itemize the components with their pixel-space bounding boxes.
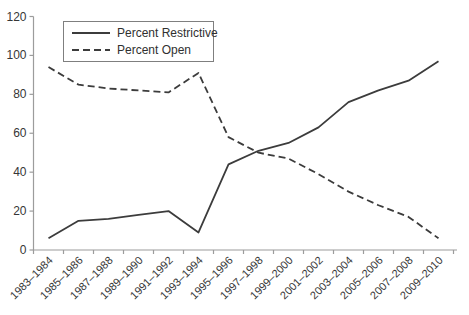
legend-label-percent-restrictive: Percent Restrictive — [117, 26, 218, 40]
legend-label-percent-open: Percent Open — [117, 43, 191, 57]
legend-item-percent-restrictive: Percent Restrictive — [72, 26, 207, 40]
y-tick-label: 100 — [6, 48, 26, 62]
legend-item-percent-open: Percent Open — [72, 43, 207, 57]
line-chart-figure: 0204060801001201983–19841985–19861987–19… — [0, 0, 469, 315]
y-tick-label: 0 — [20, 243, 27, 257]
dashed-line-icon — [72, 48, 110, 52]
y-tick-label: 60 — [13, 126, 27, 140]
y-tick-label: 20 — [13, 204, 27, 218]
y-tick-label: 120 — [6, 10, 26, 24]
series-line-percent-open — [49, 67, 439, 238]
series-line-percent-restrictive — [49, 61, 439, 238]
y-tick-label: 40 — [13, 165, 27, 179]
legend: Percent Restrictive Percent Open — [63, 21, 214, 62]
y-tick-label: 80 — [13, 87, 27, 101]
solid-line-icon — [72, 31, 110, 35]
